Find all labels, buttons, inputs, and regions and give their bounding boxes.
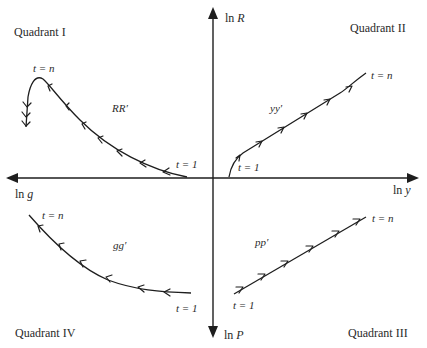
quadrant-label-3: Quadrant III xyxy=(348,326,408,340)
curve-rr xyxy=(22,78,187,177)
direction-arrow-icon xyxy=(346,86,352,92)
curve-yy-start-label: t = 1 xyxy=(238,161,259,173)
direction-arrow-icon xyxy=(80,260,86,267)
curve-label-pp: pp′ xyxy=(254,236,269,248)
curve-pp xyxy=(234,217,366,294)
curve-gg xyxy=(29,215,191,296)
curve-pp-start-label: t = 1 xyxy=(233,299,254,311)
curve-label-gg: gg′ xyxy=(113,239,127,251)
curve-gg-end-label: t = n xyxy=(42,209,64,221)
arrowhead-left-icon xyxy=(6,173,18,183)
axis-label-left: ln g xyxy=(15,187,33,201)
curve-label-yy: yy′ xyxy=(269,102,283,114)
quadrant-label-4: Quadrant IV xyxy=(15,326,76,340)
curve-gg-start-label: t = 1 xyxy=(176,302,197,314)
arrowhead-down-icon xyxy=(208,326,218,338)
axis-label-right: ln y xyxy=(393,183,411,197)
quadrant-label-2: Quadrant II xyxy=(350,21,406,35)
axes xyxy=(6,7,419,338)
quadrant-label-1: Quadrant I xyxy=(14,25,66,39)
four-quadrant-diagram: ln R ln P ln g ln y Quadrant I Quadrant … xyxy=(0,0,427,348)
axis-label-down: ln P xyxy=(224,328,244,342)
arrowhead-up-icon xyxy=(208,7,218,19)
curve-rr-start-label: t = 1 xyxy=(176,158,197,170)
arrowhead-right-icon xyxy=(407,173,419,183)
axis-label-up: ln R xyxy=(225,11,245,25)
curve-label-rr: RR′ xyxy=(111,102,128,114)
direction-arrow-icon xyxy=(22,112,30,117)
curve-yy-end-label: t = n xyxy=(371,69,393,81)
curve-pp-end-label: t = n xyxy=(372,212,394,224)
curve-rr-end-label: t = n xyxy=(33,62,55,74)
